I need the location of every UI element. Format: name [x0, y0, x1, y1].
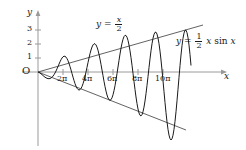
- origin-label: O: [22, 66, 30, 76]
- envelope-eq-lhs: y: [96, 19, 101, 29]
- curve-eq-argument: x: [230, 36, 235, 46]
- y-axis-group: [35, 10, 41, 146]
- curve-half-x-sin-x: [38, 30, 191, 140]
- figure-container: y x O 3 2 1 2π 4π 6π 8π 10π y = x 2 y = …: [0, 0, 246, 150]
- y-tick-label-1: 1: [27, 53, 32, 61]
- x-axis-label: x: [224, 72, 229, 81]
- x-tick-label-6pi: 6π: [107, 75, 117, 83]
- y-axis-arrowhead: [36, 10, 41, 16]
- x-axis-group: [22, 69, 227, 75]
- y-tick-label-2: 2: [27, 39, 32, 47]
- x-tick-label-10pi: 10π: [155, 75, 170, 83]
- x-tick-label-4pi: 4π: [82, 75, 92, 83]
- envelope-equation-label: y = x 2: [96, 16, 123, 34]
- curve-eq-denominator: 2: [195, 42, 202, 50]
- curve-equation-label: y = 1 2 x sin x: [176, 33, 236, 51]
- y-tick-label-3: 3: [27, 25, 32, 33]
- y-axis-label: y: [27, 8, 32, 17]
- x-tick-label-2pi: 2π: [57, 75, 67, 83]
- x-tick-label-8pi: 8π: [132, 75, 142, 83]
- envelope-eq-fraction: x 2: [115, 16, 122, 34]
- curve-eq-lhs: y: [176, 36, 181, 46]
- curve-eq-fraction: 1 2: [195, 33, 202, 51]
- curve-eq-sign: =: [184, 36, 192, 46]
- envelope-eq-denominator: 2: [115, 25, 122, 33]
- envelope-eq-sign: =: [104, 19, 112, 29]
- curve-eq-function: sin: [214, 36, 227, 46]
- curve-eq-variable: x: [206, 36, 211, 46]
